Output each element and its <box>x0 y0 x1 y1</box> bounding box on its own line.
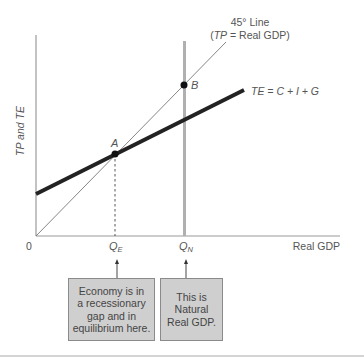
qn-arrowhead-icon <box>184 259 188 264</box>
y-axis-label: TP and TE <box>14 105 26 156</box>
natural-gdp-callout: This is Natural Real GDP. <box>160 278 223 341</box>
qn-tick-label: QN <box>179 240 194 254</box>
recessionary-gap-callout: Economy is in a recessionary gap and in … <box>68 278 155 341</box>
origin-label: 0 <box>26 240 32 252</box>
line-45-title: 45° Line <box>231 16 270 28</box>
qe-tick-label: QE <box>109 240 124 254</box>
line-45-degree <box>36 42 226 236</box>
point-b <box>181 82 188 89</box>
point-a-label: A <box>110 137 118 149</box>
point-a <box>112 151 119 158</box>
x-axis-label: Real GDP <box>293 240 340 252</box>
callout-line: Real GDP. <box>161 316 222 329</box>
te-line <box>36 90 244 194</box>
callout-line: Economy is in <box>69 285 154 298</box>
callout-line: equilibrium here. <box>69 322 154 335</box>
callout-line: Natural <box>161 303 222 316</box>
callout-line: a recessionary <box>69 297 154 310</box>
callout-line: This is <box>161 291 222 304</box>
point-b-label: B <box>191 79 198 91</box>
line-45-subtitle: (TP = Real GDP) <box>210 29 290 41</box>
te-line-label: TE = C + I + G <box>251 85 319 97</box>
callout-line: gap and in <box>69 310 154 323</box>
bottom-divider <box>0 355 364 357</box>
qe-arrowhead-icon <box>115 259 119 264</box>
